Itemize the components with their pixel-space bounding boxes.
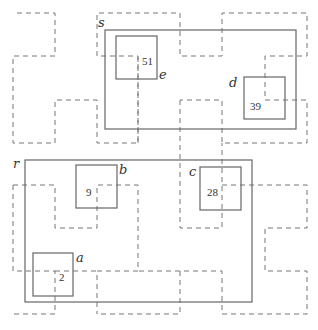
- number-d: 39: [250, 100, 262, 112]
- label-r: r: [13, 156, 20, 171]
- label-d: d: [229, 75, 237, 90]
- label-e: e: [159, 67, 167, 82]
- dashed-region: [97, 185, 307, 314]
- dashed-regions: [13, 13, 307, 314]
- number-b: 9: [86, 186, 92, 198]
- label-s: s: [98, 15, 105, 30]
- number-a: 2: [59, 271, 65, 283]
- diagram-canvas: s e d r b c a 51 39 9 28 2: [0, 0, 318, 330]
- dashed-region: [13, 185, 55, 314]
- number-e: 51: [142, 55, 153, 67]
- number-c: 28: [207, 186, 219, 198]
- dashed-region: [180, 100, 222, 228]
- label-a: a: [76, 250, 84, 265]
- label-c: c: [189, 164, 197, 179]
- box-a: [33, 253, 73, 296]
- label-b: b: [119, 162, 127, 177]
